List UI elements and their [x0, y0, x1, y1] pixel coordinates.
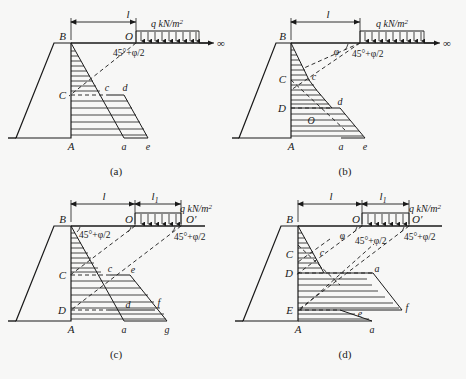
label-C-d: C	[286, 248, 294, 260]
label-e-a: e	[146, 141, 151, 152]
label-dim-l-a: l	[126, 8, 129, 20]
label-a-b: a	[339, 141, 344, 152]
label-C-a: C	[59, 89, 67, 101]
label-O-a: O	[125, 30, 133, 42]
caption-d: (d)	[339, 348, 352, 361]
label-dim-l-d: l	[329, 190, 332, 202]
label-a-c: a	[122, 324, 127, 335]
label-e-d: e	[358, 308, 363, 319]
label-load-b: q kN/m2	[376, 18, 409, 29]
retaining-wall-pressure-figure: l q kN/m2 ∞ B O C A c d a e 45°+φ/2 (a)	[0, 0, 466, 379]
label-angle-a: 45°+φ/2	[113, 48, 145, 58]
label-dim-l-c: l	[102, 190, 105, 202]
label-O-c: O	[125, 213, 133, 225]
label-dim-l-b: l	[326, 8, 329, 20]
label-angle1-c: 45°+φ/2	[79, 230, 111, 240]
label-c-c: c	[108, 263, 113, 274]
label-D-d: D	[284, 267, 293, 279]
label-phi-d: φ	[340, 231, 345, 241]
label-A-d: A	[294, 323, 302, 335]
label-g-c: g	[165, 324, 170, 335]
label-A-a: A	[67, 140, 75, 152]
label-A-b: A	[287, 140, 295, 152]
label-infinity-b: ∞	[443, 37, 451, 49]
label-B-d: B	[286, 213, 293, 225]
label-a-upper-d: a	[375, 263, 380, 274]
label-B-c: B	[59, 213, 66, 225]
label-D-b: D	[277, 102, 286, 114]
label-C-c: C	[59, 269, 67, 281]
label-c-a: c	[105, 82, 110, 93]
label-O-prime-c: O′	[186, 213, 197, 225]
caption-c: (c)	[110, 348, 123, 361]
label-D-c: D	[57, 304, 66, 316]
label-angle2-d: 45°+φ/2	[404, 232, 436, 242]
label-e-b: e	[363, 141, 368, 152]
label-E-d: E	[285, 304, 293, 316]
label-B-a: B	[59, 30, 66, 42]
caption-a: (a)	[110, 165, 123, 178]
label-angle-b: 45°+φ/2	[352, 49, 384, 59]
label-O-d: O	[352, 213, 360, 225]
label-O-prime-d: O′	[412, 213, 423, 225]
label-c-d: c	[320, 247, 325, 258]
label-a-lower-d: a	[370, 324, 375, 335]
label-e-c: e	[131, 264, 136, 275]
label-angle1-d: 45°+φ/2	[355, 236, 387, 246]
label-B-b: B	[279, 30, 286, 42]
label-c-b: c	[312, 71, 317, 82]
label-a-a: a	[122, 141, 127, 152]
label-phi-b: φ	[334, 47, 339, 57]
label-load-a: q kN/m2	[151, 18, 184, 29]
label-A-c: A	[67, 323, 75, 335]
caption-b: (b)	[339, 165, 352, 178]
label-infinity-a: ∞	[217, 37, 225, 49]
label-angle2-c: 45°+φ/2	[174, 232, 206, 242]
label-O-b: O	[307, 115, 314, 126]
label-C-b: C	[279, 73, 287, 85]
